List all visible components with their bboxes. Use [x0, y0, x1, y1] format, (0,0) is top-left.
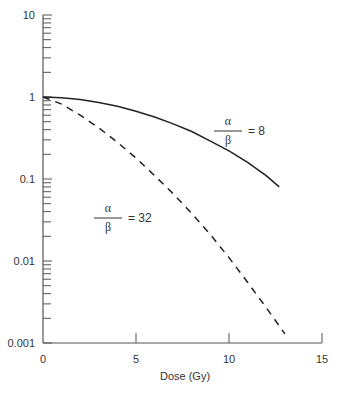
- dose-response-chart: 1010.10.010.001051015 αβ= 8αβ= 32 Dose (…: [0, 0, 339, 397]
- x-tick-label: 10: [223, 353, 235, 365]
- x-axis-label: Dose (Gy): [160, 370, 210, 382]
- y-tick-label: 0.01: [14, 255, 35, 267]
- y-tick-label: 0.001: [7, 337, 35, 349]
- svg-text:α: α: [105, 201, 112, 215]
- x-tick-label: 0: [40, 353, 46, 365]
- x-tick-label: 15: [316, 353, 328, 365]
- annotations: αβ= 8αβ= 32: [94, 114, 265, 234]
- y-tick-label: 1: [29, 91, 35, 103]
- axes: 1010.10.010.001051015: [7, 9, 328, 365]
- svg-text:β: β: [225, 133, 231, 147]
- svg-text:α: α: [225, 114, 232, 128]
- annotation-alpha-beta-32: αβ= 32: [94, 201, 152, 234]
- y-tick-label: 10: [23, 9, 35, 21]
- svg-text:= 8: = 8: [248, 124, 265, 138]
- x-tick-label: 5: [133, 353, 139, 365]
- y-tick-label: 0.1: [20, 173, 35, 185]
- annotation-alpha-beta-8: αβ= 8: [214, 114, 265, 147]
- svg-text:= 32: = 32: [128, 211, 152, 225]
- svg-text:β: β: [105, 220, 111, 234]
- curve-alpha-beta-8: [43, 97, 279, 187]
